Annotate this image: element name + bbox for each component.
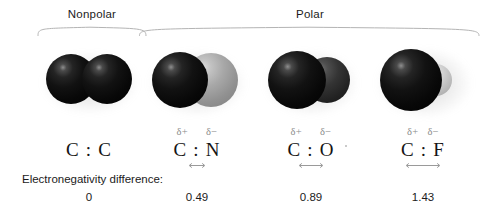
molecule-column-co: δ+ δ− C : O (252, 44, 370, 215)
delta-left: δ+ (177, 126, 188, 137)
delta-right: δ− (320, 126, 331, 137)
electronegativity-value-cf: 1.43 (364, 191, 482, 203)
space-filling-model-co (252, 44, 370, 122)
partial-charge-labels: δ+ δ− (252, 126, 370, 139)
dipole-arrow-icon (405, 161, 441, 170)
space-filling-model-cf (364, 44, 482, 122)
formula-block-co: δ+ δ− C : O (252, 126, 370, 175)
dipole-arrow-slot (30, 160, 148, 174)
partial-charge-labels: δ+ δ− (364, 126, 482, 139)
electronegativity-value-cn: 0.49 (138, 191, 256, 203)
formula-block-cn: δ+ δ− C : N (138, 126, 256, 175)
group-label-polar: Polar (140, 8, 480, 20)
dipole-arrow-icon (298, 161, 324, 170)
lewis-formula: C : N (138, 139, 256, 160)
lewis-formula: C : C (30, 139, 148, 160)
lewis-formula: C : F (364, 139, 482, 160)
delta-left: δ+ (407, 126, 418, 137)
atom-sphere-carbon-right (82, 54, 132, 104)
bond-polarity-figure: Nonpolar Polar C : C (0, 0, 498, 215)
delta-right: δ− (427, 126, 438, 137)
formula-block-cc: C : C (30, 126, 148, 174)
molecule-column-cf: δ+ δ− C : F (364, 44, 482, 215)
atom-sphere-carbon (380, 49, 442, 111)
electronegativity-row-label: Electronegativity difference: (22, 173, 163, 185)
formula-block-cf: δ+ δ− C : F (364, 126, 482, 175)
dipole-arrow-slot (364, 161, 482, 175)
bracket-polar (138, 24, 482, 38)
partial-charge-labels (30, 126, 148, 139)
molecule-column-cc: C : C (30, 44, 148, 215)
electronegativity-value-co: 0.89 (252, 191, 370, 203)
delta-left: δ+ (291, 126, 302, 137)
bracket-nonpolar (36, 24, 148, 38)
stray-speck (345, 145, 347, 147)
electronegativity-value-cc: 0 (30, 191, 148, 203)
delta-right: δ− (206, 126, 217, 137)
dipole-arrow-slot (252, 161, 370, 175)
atom-sphere-carbon (152, 52, 208, 108)
partial-charge-labels: δ+ δ− (138, 126, 256, 139)
atom-sphere-carbon (268, 51, 326, 109)
space-filling-model-cn (138, 44, 256, 122)
lewis-formula: C : O (252, 139, 370, 160)
dipole-arrow-icon (188, 161, 206, 170)
space-filling-model-cc (30, 44, 148, 122)
molecule-column-cn: δ+ δ− C : N (138, 44, 256, 215)
group-label-nonpolar: Nonpolar (36, 8, 148, 20)
